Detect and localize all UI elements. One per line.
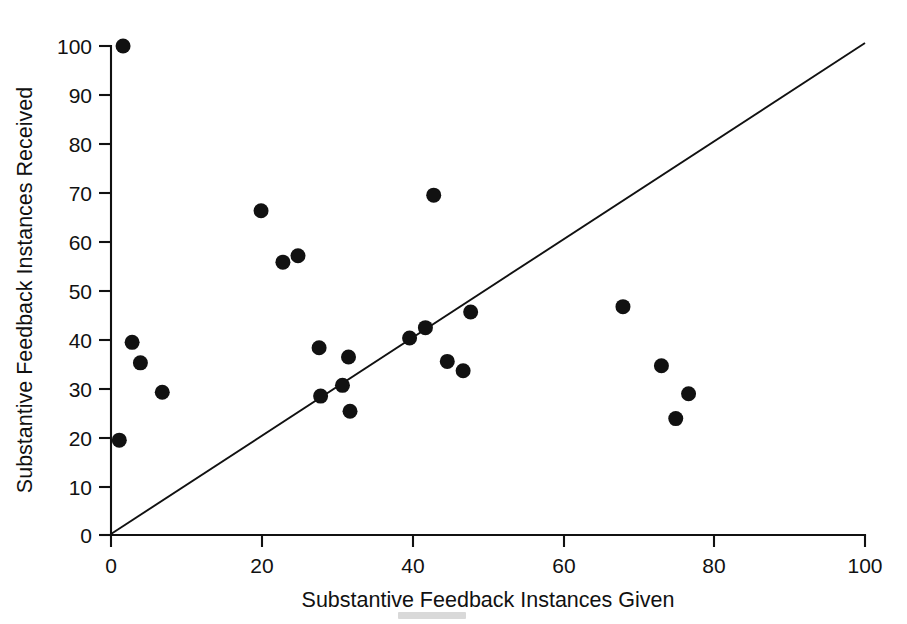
data-point bbox=[125, 335, 140, 350]
data-point bbox=[668, 411, 683, 426]
data-point bbox=[290, 248, 305, 263]
data-point bbox=[313, 389, 328, 404]
reference-line bbox=[111, 43, 865, 534]
data-point bbox=[275, 255, 290, 270]
y-tick-label: 50 bbox=[69, 280, 92, 303]
x-axis-ticks bbox=[111, 535, 865, 547]
data-point bbox=[112, 433, 127, 448]
data-point bbox=[312, 340, 327, 355]
x-tick-label: 100 bbox=[847, 554, 882, 577]
x-tick-label: 20 bbox=[250, 554, 273, 577]
data-point bbox=[133, 355, 148, 370]
y-tick-label: 80 bbox=[69, 133, 92, 156]
y-axis-title: Substantive Feedback Instances Received bbox=[13, 87, 37, 493]
data-point bbox=[116, 39, 131, 54]
data-point bbox=[681, 386, 696, 401]
y-axis-tick-labels: 100 90 80 70 60 50 40 30 20 10 0 bbox=[57, 35, 92, 547]
y-tick-label: 60 bbox=[69, 231, 92, 254]
chart-canvas: 100 90 80 70 60 50 40 30 20 10 0 0 20 40… bbox=[0, 0, 907, 624]
x-tick-label: 60 bbox=[552, 554, 575, 577]
data-point bbox=[440, 354, 455, 369]
y-tick-label: 100 bbox=[57, 35, 92, 58]
scatter-plot-figure: 100 90 80 70 60 50 40 30 20 10 0 0 20 40… bbox=[0, 0, 907, 624]
y-tick-label: 20 bbox=[69, 427, 92, 450]
data-point bbox=[254, 203, 269, 218]
x-tick-label: 0 bbox=[105, 554, 117, 577]
data-point bbox=[456, 363, 471, 378]
y-tick-label: 10 bbox=[69, 476, 92, 499]
x-axis-tick-labels: 0 20 40 60 80 100 bbox=[105, 554, 882, 577]
x-tick-label: 40 bbox=[401, 554, 424, 577]
y-tick-label: 0 bbox=[80, 524, 92, 547]
y-tick-label: 40 bbox=[69, 329, 92, 352]
data-point bbox=[335, 378, 350, 393]
y-tick-label: 70 bbox=[69, 182, 92, 205]
y-tick-label: 30 bbox=[69, 378, 92, 401]
data-points-group bbox=[112, 39, 696, 448]
data-point bbox=[654, 358, 669, 373]
data-point bbox=[343, 404, 358, 419]
x-axis-title: Substantive Feedback Instances Given bbox=[302, 588, 675, 612]
data-point bbox=[155, 385, 170, 400]
data-point bbox=[402, 330, 417, 345]
y-axis-ticks bbox=[99, 46, 111, 535]
y-tick-label: 90 bbox=[69, 84, 92, 107]
data-point bbox=[426, 188, 441, 203]
data-point bbox=[418, 320, 433, 335]
data-point bbox=[341, 350, 356, 365]
x-tick-label: 80 bbox=[702, 554, 725, 577]
data-point bbox=[463, 305, 478, 320]
scan-artifact bbox=[398, 612, 466, 619]
data-point bbox=[615, 299, 630, 314]
